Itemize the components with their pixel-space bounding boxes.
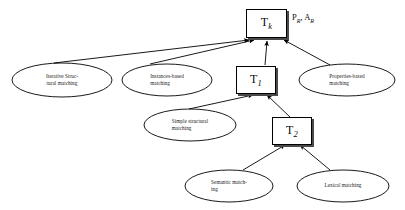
ellipse-text: Iterative Struc- tural matching: [39, 73, 85, 88]
edge-lines: [54, 40, 330, 170]
ellipse-text: Simple structural matching: [165, 118, 215, 133]
node-box-t1[interactable]: T1: [236, 66, 276, 94]
node-label-t1: T1: [250, 72, 262, 88]
edge-semantic-to-t2: [243, 145, 285, 170]
ellipse-label-properties-based-matching[interactable]: Properties-based matching: [299, 64, 395, 96]
ellipse-label-semantic-matching[interactable]: Semantic match- ing: [185, 170, 273, 202]
node-label-tk: Tk: [261, 15, 273, 31]
ellipse-label-instances-based-matching[interactable]: Instances-based matching: [122, 64, 212, 96]
diagram-canvas: Tk T1 T2 PR, AR Iterative Struc- tural m…: [0, 0, 405, 210]
edge-iterative-to-tk: [54, 40, 249, 63]
edge-instances-to-tk: [150, 40, 254, 64]
edge-t1-to-tk: [265, 41, 267, 65]
ellipse-text: Semantic match- ing: [204, 179, 254, 194]
ellipse-label-lexical-matching[interactable]: Lexical matching: [297, 170, 389, 202]
node-box-tk[interactable]: Tk: [246, 9, 287, 38]
edge-t2-to-t1: [267, 95, 291, 118]
ellipse-label-iterative-structural-matching[interactable]: Iterative Struc- tural matching: [12, 63, 112, 97]
edge-simple-to-t1: [189, 95, 253, 109]
edge-properties-to-tk: [284, 40, 330, 65]
node-box-t2[interactable]: T2: [272, 117, 312, 145]
node-label-t2: T2: [286, 123, 298, 139]
ellipse-text: Lexical matching: [318, 182, 369, 190]
edge-lexical-to-t2: [300, 145, 330, 170]
ellipse-label-simple-structural-matching[interactable]: Simple structural matching: [144, 109, 236, 141]
side-label-pr-ar: PR, AR: [292, 12, 314, 24]
ellipse-text: Properties-based matching: [322, 73, 371, 88]
ellipse-text: Instances-based matching: [143, 73, 191, 88]
